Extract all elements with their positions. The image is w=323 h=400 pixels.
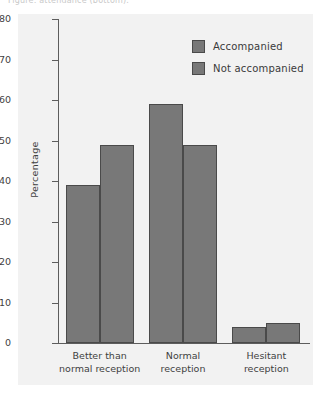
bar bbox=[266, 323, 300, 343]
bar bbox=[232, 327, 266, 343]
x-axis-category-line: Hesitant bbox=[216, 350, 316, 363]
clipped-caption: Figure: attendance (bottom). bbox=[8, 0, 308, 5]
bar bbox=[149, 104, 183, 343]
y-axis-tick-label: 50 bbox=[0, 136, 11, 145]
y-axis-tick bbox=[52, 343, 58, 344]
bar bbox=[66, 185, 100, 343]
x-axis-line bbox=[58, 343, 310, 344]
y-axis-tick-label: 30 bbox=[0, 217, 11, 226]
y-axis-tick-label: 10 bbox=[0, 298, 11, 307]
chart-legend: Accompanied Not accompanied bbox=[192, 40, 304, 84]
legend-item[interactable]: Not accompanied bbox=[192, 62, 304, 75]
legend-item[interactable]: Accompanied bbox=[192, 40, 304, 53]
legend-swatch-icon bbox=[192, 40, 205, 53]
bar bbox=[183, 145, 217, 343]
legend-swatch-icon bbox=[192, 62, 205, 75]
y-axis-tick-label: 70 bbox=[0, 55, 11, 64]
legend-item-label: Accompanied bbox=[213, 41, 283, 52]
bar bbox=[100, 145, 134, 343]
y-axis-label: Percentage bbox=[29, 110, 40, 230]
y-axis-tick-label: 60 bbox=[0, 95, 11, 104]
x-axis-category-label: Hesitantreception bbox=[216, 350, 316, 375]
y-axis-tick-label: 20 bbox=[0, 257, 11, 266]
legend-item-label: Not accompanied bbox=[213, 63, 304, 74]
x-axis-category-line: reception bbox=[216, 363, 316, 376]
y-axis-tick-label: 0 bbox=[0, 338, 11, 347]
chart-panel: Percentage 01020304050607080 Better than… bbox=[18, 14, 313, 385]
y-axis-tick-label: 40 bbox=[0, 176, 11, 185]
y-axis-tick-label: 80 bbox=[0, 14, 11, 23]
